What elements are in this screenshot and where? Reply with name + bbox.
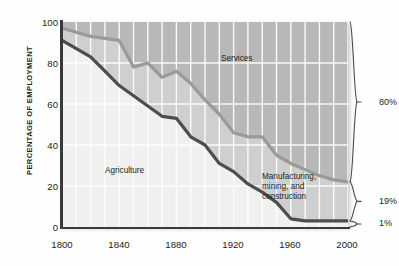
employment-share-chart: PERCENTAGE OF EMPLOYMENT 100 80 60 40 20… bbox=[0, 0, 399, 266]
manufacturing-percent-label: 19% bbox=[379, 197, 397, 206]
services-percent-label: 80% bbox=[379, 98, 397, 107]
x-tick-1960: 1960 bbox=[270, 240, 310, 250]
bracket-manufacturing-share bbox=[350, 182, 357, 221]
bracket-services-share bbox=[350, 22, 357, 182]
x-axis-tick-labels: 1800 1840 1880 1920 1960 2000 bbox=[0, 0, 399, 266]
bracket-agriculture-share bbox=[350, 221, 357, 227]
x-tick-1880: 1880 bbox=[156, 240, 196, 250]
x-tick-1840: 1840 bbox=[99, 240, 139, 250]
x-tick-1920: 1920 bbox=[213, 240, 253, 250]
x-tick-2000: 2000 bbox=[327, 240, 367, 250]
agriculture-percent-label: 1% bbox=[379, 219, 392, 228]
x-tick-1800: 1800 bbox=[42, 240, 82, 250]
